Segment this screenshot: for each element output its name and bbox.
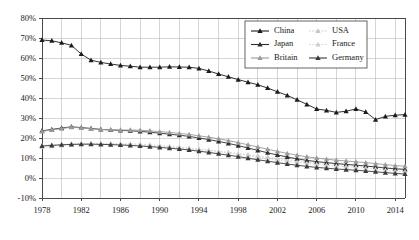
y-tick-label: 10%: [20, 153, 36, 163]
y-tick-label: 30%: [20, 113, 36, 123]
legend-label: Japan: [274, 38, 294, 48]
data-point-marker: [314, 106, 319, 111]
y-tick-label: 20%: [20, 133, 36, 143]
series-britain: [39, 125, 407, 169]
line-chart: 80%70%60%50%40%30%20%10%0%-10% 197819821…: [0, 0, 419, 240]
series-line-germany: [42, 144, 405, 174]
legend-label: Germany: [332, 52, 364, 62]
x-tick-label: 1994: [190, 205, 208, 215]
series-germany: [39, 142, 407, 177]
y-tick-label: 40%: [20, 93, 36, 103]
series-line-britain: [42, 127, 405, 166]
chart-legend: ChinaUSAJapanFranceBritainGermany: [245, 21, 367, 68]
x-axis-tick-labels: 1978198219861990199419982002200620102014: [34, 205, 405, 215]
data-point-marker: [304, 102, 309, 107]
y-tick-label: 0%: [25, 173, 36, 183]
x-tick-label: 2006: [308, 205, 325, 215]
data-point-marker: [353, 106, 358, 111]
y-tick-label: 80%: [20, 13, 36, 23]
x-tick-label: 1978: [34, 205, 51, 215]
series-line-france: [42, 143, 405, 171]
y-tick-label: 50%: [20, 73, 36, 83]
chart-canvas: 80%70%60%50%40%30%20%10%0%-10% 197819821…: [0, 0, 419, 240]
y-tick-label: 70%: [20, 33, 36, 43]
x-tick-label: 2010: [347, 205, 364, 215]
series-france: [39, 141, 407, 174]
y-tick-label: -10%: [18, 193, 36, 203]
y-axis-tick-labels: 80%70%60%50%40%30%20%10%0%-10%: [18, 13, 36, 203]
y-tick-label: 60%: [20, 53, 36, 63]
x-tick-label: 2002: [269, 205, 286, 215]
x-tick-label: 1990: [151, 205, 168, 215]
series-japan: [39, 124, 407, 171]
legend-label: France: [332, 38, 355, 48]
legend-label: China: [274, 25, 295, 35]
series-line-japan: [42, 127, 405, 170]
x-tick-label: 1998: [230, 205, 247, 215]
series-usa: [39, 141, 407, 171]
legend-label: Britain: [274, 52, 298, 62]
legend-label: USA: [332, 25, 350, 35]
x-tick-label: 1986: [112, 205, 129, 215]
x-tick-label: 1982: [73, 205, 90, 215]
x-tick-label: 2014: [387, 205, 405, 215]
